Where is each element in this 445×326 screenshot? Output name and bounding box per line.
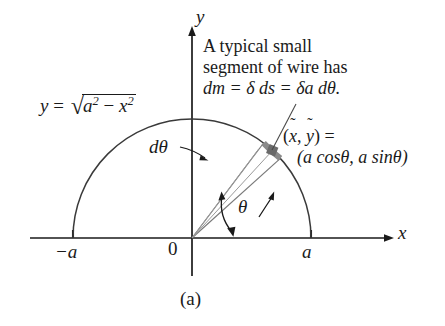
- annotation-note-line-3: dm = δ ds = δa dθ.: [203, 78, 347, 99]
- tilde-mark-x: ˜: [290, 115, 295, 134]
- wedge-ray-lower: [192, 158, 280, 238]
- label-theta: θ: [238, 196, 247, 218]
- radicand-term1-exponent: 2: [93, 94, 99, 108]
- radicand-minus: −: [104, 95, 115, 116]
- point-separator: ,: [297, 126, 306, 146]
- figure-semicircular-wire-diagram: y x 0 −a a y = √a2 − x2 A typical small …: [0, 0, 445, 326]
- x-axis-label: x: [398, 222, 406, 244]
- origin-label: 0: [168, 238, 178, 260]
- wedge-ray-inner-lower: [192, 151, 272, 238]
- annotation-point-line-1: (˜x, ˜y) =: [283, 126, 408, 147]
- wedge-ray-inner-upper: [192, 149, 259, 238]
- annotation-note-line-1: A typical small: [203, 36, 347, 57]
- y-axis-arrowhead: [188, 26, 196, 36]
- tick-label-negative-a: −a: [55, 241, 77, 263]
- annotation-typical-segment: A typical small segment of wire has dm =…: [203, 36, 347, 100]
- y-axis-label: y: [196, 6, 204, 28]
- annotation-point-coordinates: (˜x, ˜y) = (a cosθ, a sinθ): [283, 126, 408, 168]
- curve-eq-radical: √a2 − x2: [69, 92, 136, 121]
- radicand-term2-exponent: 2: [127, 94, 133, 108]
- point-var-y-tilde: ˜y: [306, 126, 314, 147]
- curve-eq-radicand: a2 − x2: [82, 94, 136, 117]
- curve-eq-lhs: y: [40, 95, 48, 116]
- x-axis: [30, 234, 394, 242]
- radicand-term1-base: a: [83, 95, 93, 116]
- point-paren-close-equals: ) =: [314, 126, 335, 146]
- figure-caption: (a): [180, 288, 201, 310]
- tick-label-positive-a: a: [302, 241, 312, 263]
- annotation-note-line-2: segment of wire has: [203, 57, 347, 78]
- pointer-arrow-radius: [259, 192, 274, 218]
- curve-equation-label: y = √a2 − x2: [40, 92, 136, 121]
- x-axis-arrowhead: [384, 234, 394, 242]
- angle-arc-theta: [218, 192, 235, 237]
- tilde-mark-y: ˜: [307, 115, 312, 134]
- curve-eq-equals: =: [53, 95, 64, 116]
- leader-arrow-dtheta: [180, 147, 209, 161]
- label-d-theta: dθ: [149, 136, 168, 158]
- point-var-x-tilde: ˜x: [289, 126, 297, 147]
- annotation-point-line-2: (a cosθ, a sinθ): [297, 147, 408, 168]
